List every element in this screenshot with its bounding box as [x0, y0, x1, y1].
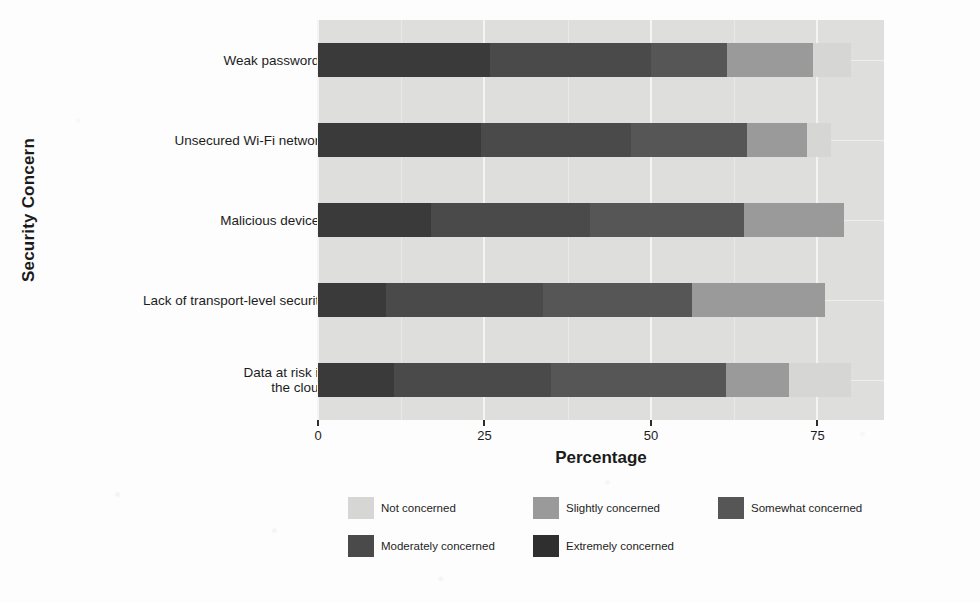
- legend-item[interactable]: Extremely concerned: [533, 535, 674, 557]
- bar-segment: [807, 123, 830, 157]
- bar-row: [318, 43, 851, 77]
- bar-segment: [631, 123, 748, 157]
- bar-segment: [481, 123, 631, 157]
- bar-segment: [726, 363, 789, 397]
- y-axis-category-labels: Weak passwordsUnsecured Wi-Fi networkMal…: [44, 20, 334, 420]
- bar-segment: [318, 43, 490, 77]
- y-axis-tick-label: Lack of transport-level security: [143, 293, 326, 308]
- x-axis-tick-mark: [650, 420, 652, 426]
- bar-segment: [692, 283, 825, 317]
- bar-segment: [551, 363, 725, 397]
- y-axis-title: Security Concern: [14, 0, 44, 420]
- y-axis-title-label: Security Concern: [19, 138, 39, 282]
- legend-swatch: [348, 497, 374, 519]
- legend-item[interactable]: Not concerned: [348, 497, 456, 519]
- bar-segment: [590, 203, 744, 237]
- x-axis-tick-label: 50: [644, 428, 658, 443]
- legend-item[interactable]: Somewhat concerned: [718, 497, 862, 519]
- bar-segment: [318, 363, 394, 397]
- bar-segment: [813, 43, 850, 77]
- x-axis-title: Percentage: [318, 448, 884, 468]
- x-axis-tick-mark: [317, 420, 319, 426]
- chart-legend: Not concernedSlightly concernedSomewhat …: [318, 497, 918, 569]
- y-axis-tick-label: Unsecured Wi-Fi network: [174, 133, 326, 148]
- bar-segment: [651, 43, 727, 77]
- legend-swatch: [718, 497, 744, 519]
- legend-item[interactable]: Moderately concerned: [348, 535, 495, 557]
- plot-panel: [318, 20, 884, 420]
- x-axis-tick-mark: [816, 420, 818, 426]
- x-axis-tick-label: 0: [314, 428, 321, 443]
- legend-swatch: [533, 497, 559, 519]
- bar-segment: [318, 203, 431, 237]
- legend-label: Slightly concerned: [566, 502, 660, 514]
- bar-segment: [744, 203, 844, 237]
- legend-label: Not concerned: [381, 502, 456, 514]
- bar-row: [318, 203, 844, 237]
- x-axis-tick-label: 25: [477, 428, 491, 443]
- y-axis-tick-label: Data at risk in the cloud: [243, 365, 326, 395]
- bar-row: [318, 123, 831, 157]
- bar-segment: [318, 123, 481, 157]
- bar-segment: [318, 283, 386, 317]
- y-axis-tick-label: Malicious devices: [220, 213, 326, 228]
- legend-swatch: [533, 535, 559, 557]
- x-axis-tick-mark: [483, 420, 485, 426]
- x-axis-ticks: 0255075: [318, 420, 884, 450]
- x-axis-tick-label: 75: [810, 428, 824, 443]
- bar-segment: [394, 363, 551, 397]
- bar-segment: [727, 43, 814, 77]
- bar-segment: [789, 363, 851, 397]
- bar-row: [318, 283, 825, 317]
- bar-segment: [747, 123, 807, 157]
- y-axis-tick-label: Weak passwords: [223, 53, 326, 68]
- bar-segment: [543, 283, 692, 317]
- legend-item[interactable]: Slightly concerned: [533, 497, 660, 519]
- stacked-bar-chart: Security Concern Weak passwordsUnsecured…: [0, 0, 980, 603]
- bar-segment: [386, 283, 543, 317]
- bar-segment: [490, 43, 651, 77]
- legend-label: Extremely concerned: [566, 540, 674, 552]
- legend-label: Moderately concerned: [381, 540, 495, 552]
- bar-row: [318, 363, 851, 397]
- legend-label: Somewhat concerned: [751, 502, 862, 514]
- legend-swatch: [348, 535, 374, 557]
- bar-segment: [431, 203, 589, 237]
